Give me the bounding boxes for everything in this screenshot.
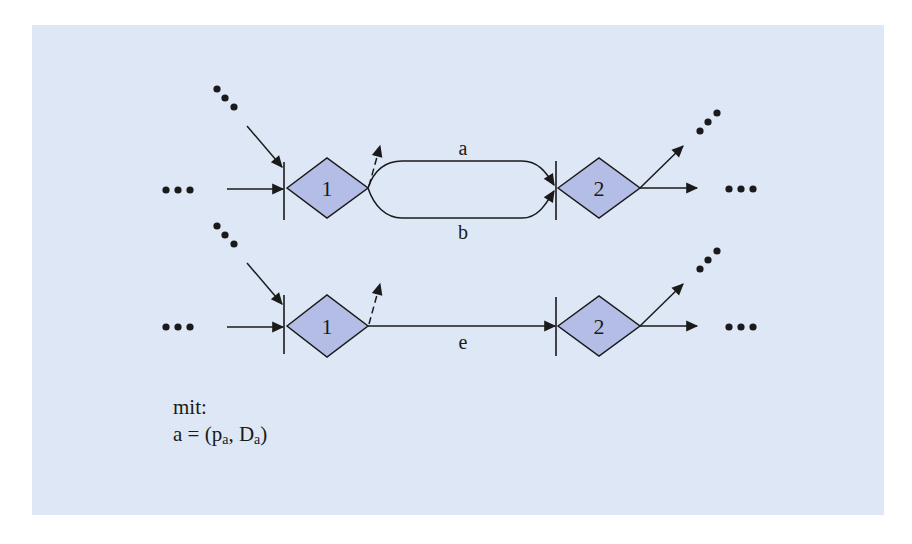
ellipsis-diagonal-icon [696,247,720,272]
edge-label-e: e [459,331,468,353]
caption-text: , D [228,422,254,446]
ellipsis-diagonal-icon [213,85,237,110]
incoming-diagonal-arrow [247,126,282,167]
caption-text: a = (p [173,422,222,446]
edge-label-a: a [459,137,468,159]
caption-text: ) [260,422,267,446]
top-row: 1 a b 2 [162,85,756,243]
svg-text:2: 2 [594,314,605,339]
node-1: 1 [287,295,368,357]
node-1: 1 [287,158,368,218]
caption-line-2: a = (pa, Da) [173,424,267,447]
incoming-diagonal-arrow [247,263,282,304]
ellipsis-icon [162,323,193,330]
dashed-outgoing-arrow [369,284,380,324]
ellipsis-diagonal-icon [213,222,237,247]
edge-a [368,161,554,188]
node-2: 2 [558,158,640,218]
ellipsis-diagonal-icon [696,109,720,134]
svg-text:2: 2 [594,176,605,201]
ellipsis-icon [725,323,756,330]
svg-text:1: 1 [322,176,333,201]
ellipsis-icon [725,185,756,192]
outgoing-diagonal-arrow [640,146,683,188]
svg-text:1: 1 [322,314,333,339]
node-2: 2 [558,296,640,356]
outgoing-diagonal-arrow [640,284,683,326]
edge-label-b: b [458,221,468,243]
flow-diagram: 1 a b 2 [0,0,912,544]
edge-b [368,188,554,218]
ellipsis-icon [162,186,193,193]
caption-line-1: mit: [173,397,207,418]
